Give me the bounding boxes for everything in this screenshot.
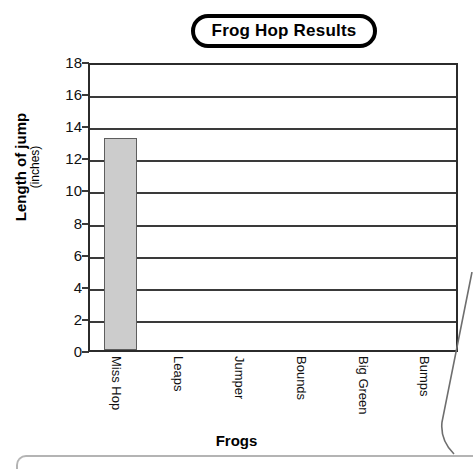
bar[interactable]	[104, 138, 137, 350]
y-axis-title: Length of jump (inches)	[12, 102, 42, 232]
x-category-slot: Jumper	[226, 354, 259, 432]
x-axis-title: Frogs	[0, 432, 473, 449]
bar-slot	[351, 61, 384, 350]
y-tick-label: 0	[54, 344, 82, 359]
y-axis-ticks: 181614121086420	[52, 63, 82, 352]
page-bottom-rule	[16, 455, 473, 469]
x-tick-label: Big Green	[356, 356, 371, 415]
x-category-slot: Miss Hop	[102, 354, 135, 432]
y-tick-label: 2	[54, 312, 82, 327]
y-tick-label: 8	[54, 216, 82, 231]
y-tick-label: 12	[54, 151, 82, 166]
y-tick-label: 4	[54, 280, 82, 295]
bar-series	[90, 65, 456, 350]
x-tick-label: Bounds	[294, 356, 309, 400]
bar-slot	[413, 61, 446, 350]
y-tick-label: 14	[54, 119, 82, 134]
bar-slot	[166, 61, 199, 350]
y-tick-label: 16	[54, 87, 82, 102]
x-tick-label: Jumper	[232, 356, 247, 399]
y-tick-label: 18	[54, 55, 82, 70]
x-tick-label: Leaps	[171, 356, 186, 391]
x-axis-categories: Miss HopLeapsJumperBoundsBig GreenBumps	[88, 354, 458, 432]
y-axis-title-main: Length of jump	[12, 102, 29, 232]
x-category-slot: Bounds	[287, 354, 320, 432]
x-tick-label: Bumps	[417, 356, 432, 396]
x-category-slot: Big Green	[349, 354, 382, 432]
x-tick-label: Miss Hop	[109, 356, 124, 410]
y-axis-title-units: (inches)	[28, 102, 42, 232]
chart-title-badge: Frog Hop Results	[191, 14, 377, 48]
x-category-slot: Leaps	[164, 354, 197, 432]
chart-title: Frog Hop Results	[212, 21, 357, 41]
y-tick-label: 6	[54, 248, 82, 263]
x-category-slot: Bumps	[411, 354, 444, 432]
bar-slot	[228, 61, 261, 350]
bar-slot	[104, 61, 137, 350]
bar-slot	[289, 61, 322, 350]
plot-area	[88, 63, 458, 352]
y-tick-label: 10	[54, 183, 82, 198]
